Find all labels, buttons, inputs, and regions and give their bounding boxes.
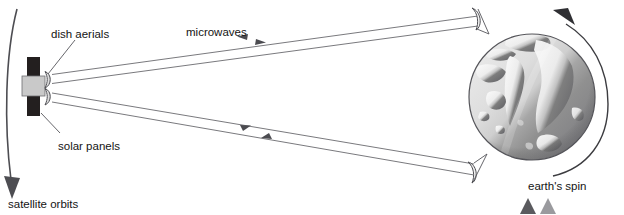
leader-dish-aerials	[48, 40, 75, 74]
satellite-diagram: dish aerials microwaves solar panels sat…	[0, 0, 624, 215]
satellite-orbit-arc	[4, 9, 20, 199]
ground-station-lower	[468, 154, 487, 183]
ground-station-upper	[472, 8, 489, 34]
earth-globe	[469, 34, 595, 162]
label-microwaves: microwaves	[186, 26, 247, 38]
diagram-canvas: dish aerials microwaves solar panels sat…	[0, 0, 624, 215]
label-solar-panels: solar panels	[58, 140, 120, 152]
solar-panel-top	[27, 57, 40, 78]
leader-solar-panels	[41, 113, 60, 133]
communications-satellite	[22, 57, 50, 116]
corner-marks	[520, 198, 556, 214]
beam-arrow-to-earth	[255, 39, 266, 45]
beam-arrow-to-satellite-2	[240, 125, 251, 131]
label-earths-spin: earth's spin	[528, 180, 586, 192]
dish-aerial-upper	[45, 72, 50, 89]
satellite-body	[22, 76, 45, 96]
beam-arrow-to-earth-2	[261, 133, 272, 139]
label-satellite-orbits: satellite orbits	[8, 198, 79, 210]
dish-aerial-lower	[45, 89, 50, 106]
label-dish-aerials: dish aerials	[51, 28, 109, 40]
solar-panel-bottom	[27, 95, 40, 116]
